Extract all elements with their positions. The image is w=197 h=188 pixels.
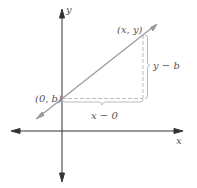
- x-axis-right-arrow-icon: [174, 129, 183, 134]
- line-arrow-lower-icon: [36, 112, 44, 119]
- y-axis-label: y: [65, 4, 72, 15]
- y-axis-up-arrow-icon: [60, 9, 65, 18]
- line-arrow-upper-icon: [151, 24, 158, 31]
- horizontal-brace: [62, 99, 143, 105]
- vertical-brace-label: y − b: [152, 60, 180, 71]
- x-axis-label: x: [176, 135, 182, 146]
- x-axis-left-arrow-icon: [11, 129, 20, 134]
- graph-line: [36, 24, 157, 119]
- slope-diagram: y x (x, y) (0, b) y − b x − 0: [0, 0, 197, 188]
- diagram-canvas: y x (x, y) (0, b) y − b x − 0: [0, 0, 197, 188]
- point-label: (x, y): [117, 24, 143, 35]
- vertical-brace: [145, 35, 150, 99]
- intercept-label: (0, b): [35, 93, 62, 104]
- horizontal-brace-label: x − 0: [91, 110, 118, 121]
- x-axis: [11, 129, 183, 134]
- y-axis-down-arrow-icon: [60, 173, 65, 182]
